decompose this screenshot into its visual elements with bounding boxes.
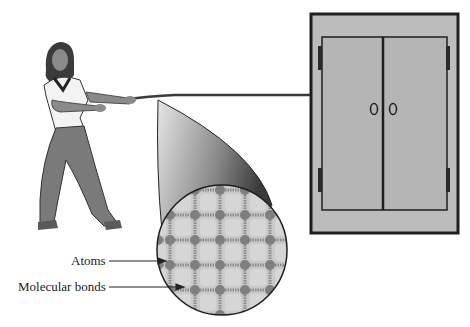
hinge bbox=[446, 46, 450, 70]
cabinet bbox=[311, 14, 458, 233]
person-figure bbox=[38, 42, 136, 230]
hinge bbox=[318, 46, 322, 70]
hinge bbox=[446, 168, 450, 192]
atoms-label: Atoms bbox=[71, 253, 106, 269]
diagram-canvas bbox=[0, 0, 470, 327]
molecular-bonds-label: Molecular bonds bbox=[18, 279, 106, 295]
hinge bbox=[318, 168, 322, 192]
